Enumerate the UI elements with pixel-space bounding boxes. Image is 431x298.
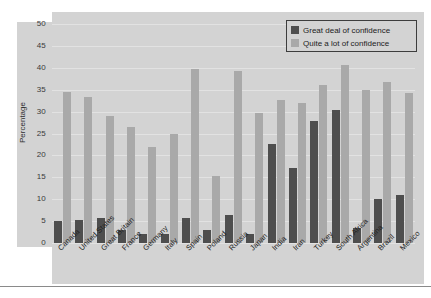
bar bbox=[298, 103, 306, 243]
legend-label-great-deal: Great deal of confidence bbox=[303, 26, 390, 35]
bar-group bbox=[310, 24, 327, 243]
bar bbox=[268, 144, 276, 243]
bar bbox=[63, 92, 71, 243]
legend-swatch-quite-a-lot bbox=[291, 39, 299, 47]
y-axis-tick-label: 10 bbox=[20, 195, 46, 203]
y-axis-tick-label: 0 bbox=[20, 239, 46, 247]
y-axis-tick-label: 45 bbox=[20, 42, 46, 50]
legend-item-quite-a-lot: Quite a lot of confidence bbox=[291, 37, 412, 49]
chart-legend: Great deal of confidence Quite a lot of … bbox=[286, 20, 417, 52]
bar-group bbox=[396, 24, 413, 243]
bar-group bbox=[161, 24, 178, 243]
panel-notch-bottom bbox=[17, 247, 52, 284]
bar-group bbox=[118, 24, 135, 243]
bar-group bbox=[268, 24, 285, 243]
bar bbox=[170, 134, 178, 243]
bar-group bbox=[374, 24, 391, 243]
bar-group bbox=[97, 24, 114, 243]
y-axis-tick-label: 40 bbox=[20, 64, 46, 72]
bar-group bbox=[289, 24, 306, 243]
legend-label-quite-a-lot: Quite a lot of confidence bbox=[303, 39, 389, 48]
bar-group bbox=[182, 24, 199, 243]
bar bbox=[310, 121, 318, 243]
footer-divider bbox=[0, 286, 431, 287]
bar-group bbox=[332, 24, 349, 243]
y-axis-tick-labels: 50454035302520151050 bbox=[16, 24, 46, 243]
bar-group bbox=[246, 24, 263, 243]
bar-group bbox=[225, 24, 242, 243]
bar bbox=[225, 215, 233, 243]
bar bbox=[396, 195, 404, 243]
bar bbox=[289, 168, 297, 243]
bar bbox=[234, 71, 242, 243]
bar bbox=[277, 100, 285, 243]
y-axis-tick-label: 15 bbox=[20, 173, 46, 181]
bar bbox=[84, 97, 92, 243]
bar bbox=[332, 110, 340, 243]
y-axis-tick-label: 35 bbox=[20, 86, 46, 94]
bar-group bbox=[54, 24, 71, 243]
bar bbox=[319, 85, 327, 243]
y-axis-tick-label: 50 bbox=[20, 20, 46, 28]
bar bbox=[191, 69, 199, 243]
legend-swatch-great-deal bbox=[291, 26, 299, 34]
y-axis-tick-label: 20 bbox=[20, 151, 46, 159]
legend-item-great-deal: Great deal of confidence bbox=[291, 24, 412, 36]
bar bbox=[383, 82, 391, 243]
y-axis-tick-label: 5 bbox=[20, 217, 46, 225]
bar-group bbox=[75, 24, 92, 243]
plot-area bbox=[52, 24, 415, 243]
bar bbox=[405, 93, 413, 243]
bar-group bbox=[139, 24, 156, 243]
bar-group bbox=[203, 24, 220, 243]
bar-group bbox=[353, 24, 370, 243]
bar bbox=[148, 147, 156, 243]
y-axis-tick-label: 30 bbox=[20, 108, 46, 116]
bar bbox=[341, 65, 349, 243]
page-root: Percentage 50454035302520151050 Great de… bbox=[0, 0, 431, 298]
y-axis-tick-label: 25 bbox=[20, 130, 46, 138]
bar bbox=[255, 113, 263, 243]
